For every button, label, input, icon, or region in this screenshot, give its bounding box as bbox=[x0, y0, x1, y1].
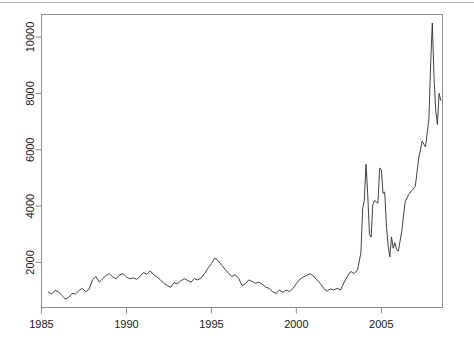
y-axis-tick-label: 8000 bbox=[25, 81, 37, 105]
y-axis-tick-label: 6000 bbox=[25, 137, 37, 161]
x-axis-tick-label: 1985 bbox=[29, 318, 53, 330]
data-series-group bbox=[48, 23, 441, 299]
y-axis-tick-label: 4000 bbox=[25, 194, 37, 218]
y-axis-tick-label: 2000 bbox=[25, 250, 37, 274]
top-border-rule bbox=[0, 2, 474, 3]
plot-frame bbox=[42, 15, 443, 308]
x-axis-tick-label: 2000 bbox=[284, 318, 308, 330]
chart-figure: 200040006000800010000 198519901995200020… bbox=[0, 0, 474, 347]
y-axis: 200040006000800010000 bbox=[25, 22, 42, 275]
x-axis-tick-label: 1990 bbox=[114, 318, 138, 330]
data-line bbox=[48, 23, 441, 299]
x-axis: 19851990199520002005 bbox=[29, 308, 393, 330]
x-axis-tick-label: 1995 bbox=[199, 318, 223, 330]
x-axis-tick-label: 2005 bbox=[369, 318, 393, 330]
line-chart-canvas: 200040006000800010000 198519901995200020… bbox=[0, 0, 474, 347]
y-axis-tick-label: 10000 bbox=[25, 22, 37, 53]
